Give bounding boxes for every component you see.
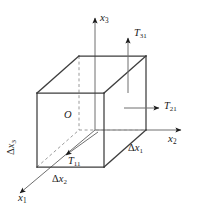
axis-label-x2: x2 <box>168 133 176 146</box>
axis-label-x3-sub: 3 <box>105 17 108 25</box>
dimension-label-dx2-delta: Δ <box>52 173 59 184</box>
traction-arrow-T11 <box>66 132 98 155</box>
dimension-label-dx1-sub: 1 <box>139 147 142 154</box>
axis-label-x3: x3 <box>100 12 108 25</box>
traction-label-T11: T11 <box>68 156 80 168</box>
dimension-label-dx2-sub: 2 <box>63 178 66 185</box>
traction-label-T21-sub: 21 <box>170 105 177 112</box>
origin-label: O <box>64 110 72 121</box>
traction-label-T21: T21 <box>164 101 177 113</box>
edge-depth-top-left <box>37 56 79 93</box>
traction-label-T31-sub: 31 <box>140 32 147 39</box>
figure-canvas: O x3 x2 x1 T31 T21 T11 Δx1 Δx2 Δx3 <box>0 0 201 211</box>
axis-label-x1: x1 <box>18 192 26 205</box>
dimension-label-dx1: Δx1 <box>128 143 143 155</box>
edge-depth-top-right <box>104 56 146 93</box>
axis-label-x2-sub: 2 <box>173 138 176 146</box>
dimension-label-dx3-base: x <box>5 144 16 149</box>
dimension-label-dx3-delta: Δ <box>5 148 16 155</box>
dimension-label-dx3: Δx3 <box>6 140 18 155</box>
dimension-label-dx2: Δx2 <box>52 174 67 186</box>
traction-label-T31: T31 <box>134 28 147 40</box>
dimension-label-dx1-delta: Δ <box>128 142 135 153</box>
dimension-label-dx3-sub: 3 <box>10 140 17 143</box>
axis-label-x1-sub: 1 <box>23 197 26 205</box>
traction-label-T11-sub: 11 <box>74 160 80 167</box>
